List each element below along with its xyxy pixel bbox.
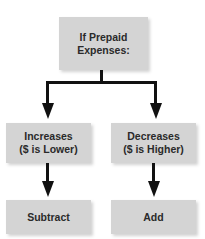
split-line <box>46 81 157 84</box>
right-branch-line <box>154 81 157 105</box>
increases-line2: ($ is Lower) <box>19 143 77 156</box>
left-arrow-icon <box>42 103 54 119</box>
root-box: If Prepaid Expenses: <box>59 17 148 70</box>
decreases-box: Decreases ($ is Higher) <box>111 123 196 163</box>
increases-line1: Increases <box>19 130 77 143</box>
decreases-line1: Decreases <box>123 130 184 143</box>
left-result-arrow-icon <box>42 181 54 197</box>
subtract-label: Subtract <box>27 211 70 224</box>
right-result-line <box>152 163 155 183</box>
root-line2: Expenses: <box>77 44 130 57</box>
decreases-line2: ($ is Higher) <box>123 143 184 156</box>
right-arrow-icon <box>150 103 162 119</box>
add-box: Add <box>111 200 196 234</box>
left-result-line <box>46 163 49 183</box>
right-result-arrow-icon <box>148 181 160 197</box>
add-label: Add <box>143 211 163 224</box>
increases-box: Increases ($ is Lower) <box>6 123 91 163</box>
left-branch-line <box>46 81 49 105</box>
root-line1: If Prepaid <box>77 31 130 44</box>
subtract-box: Subtract <box>6 200 91 234</box>
